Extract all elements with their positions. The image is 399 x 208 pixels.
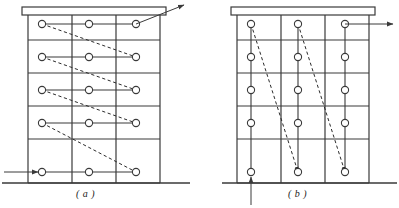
node-marker[interactable] [38, 53, 45, 60]
node-marker[interactable] [85, 53, 92, 60]
frame-diagram-svg [0, 0, 399, 208]
node-marker[interactable] [247, 168, 254, 175]
node-marker[interactable] [38, 168, 45, 175]
node-marker[interactable] [38, 20, 45, 27]
panel-b [222, 7, 397, 205]
dashed-link [251, 24, 298, 172]
node-marker[interactable] [247, 119, 254, 126]
dashed-link [298, 24, 345, 172]
node-marker[interactable] [294, 168, 301, 175]
node-marker[interactable] [294, 53, 301, 60]
roof-slab [231, 7, 375, 15]
node-marker[interactable] [341, 168, 348, 175]
node-marker[interactable] [38, 119, 45, 126]
node-marker[interactable] [132, 119, 139, 126]
node-marker[interactable] [294, 119, 301, 126]
node-marker[interactable] [294, 86, 301, 93]
node-marker[interactable] [85, 20, 92, 27]
caption-panel-a: ( a ) [76, 188, 95, 199]
node-marker[interactable] [132, 53, 139, 60]
roof-slab [22, 7, 166, 15]
node-marker[interactable] [132, 168, 139, 175]
dashed-link [42, 123, 136, 172]
panel-a [2, 5, 190, 183]
node-marker[interactable] [38, 86, 45, 93]
figure-container: ( a ) ( b ) [0, 0, 399, 208]
node-marker[interactable] [85, 119, 92, 126]
node-marker[interactable] [341, 53, 348, 60]
node-marker[interactable] [132, 86, 139, 93]
node-marker[interactable] [341, 86, 348, 93]
node-marker[interactable] [247, 53, 254, 60]
node-marker[interactable] [85, 86, 92, 93]
node-marker[interactable] [341, 119, 348, 126]
node-marker[interactable] [247, 86, 254, 93]
caption-panel-b: ( b ) [288, 188, 307, 199]
node-marker[interactable] [294, 20, 301, 27]
node-marker[interactable] [247, 20, 254, 27]
node-marker[interactable] [85, 168, 92, 175]
